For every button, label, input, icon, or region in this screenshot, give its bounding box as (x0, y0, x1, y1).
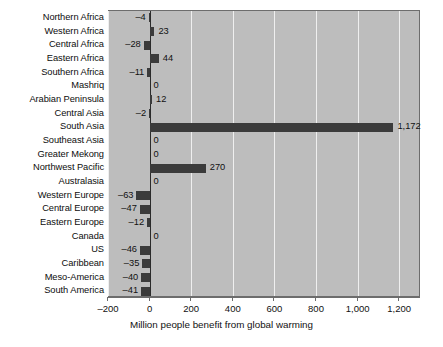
category-label: Central Europe (0, 203, 104, 213)
x-axis-line (108, 297, 420, 298)
category-label: Southern Africa (0, 67, 104, 77)
bar (144, 41, 150, 50)
bar-value-label: 0 (154, 136, 159, 145)
bar (149, 13, 150, 22)
bar (140, 205, 150, 214)
gridline-400 (233, 11, 234, 296)
chart-root: Northern AfricaWestern AfricaCentral Afr… (0, 0, 443, 347)
bar (150, 123, 394, 132)
category-label: South Asia (0, 121, 104, 131)
bar-value-label: –63 (109, 191, 133, 200)
x-tick-mark (273, 297, 274, 301)
category-label: Caribbean (0, 258, 104, 268)
bar-value-label: 12 (156, 95, 166, 104)
bar-value-label: 0 (154, 150, 159, 159)
category-label: US (0, 244, 104, 254)
category-label: Greater Mekong (0, 149, 104, 159)
gridline-800 (316, 11, 317, 296)
category-label: Western Europe (0, 190, 104, 200)
x-tick-label: –200 (97, 303, 118, 314)
bar (147, 218, 149, 227)
gridline-1200 (399, 11, 400, 296)
bar (150, 164, 206, 173)
bar (141, 287, 150, 296)
category-label: Northwest Pacific (0, 162, 104, 172)
bar-value-label: –11 (109, 68, 144, 77)
category-label: Western Africa (0, 26, 104, 36)
category-label: Central Asia (0, 108, 104, 118)
category-axis-labels: Northern AfricaWestern AfricaCentral Afr… (0, 10, 104, 297)
bar-value-label: 44 (163, 54, 173, 63)
category-label: Canada (0, 231, 104, 241)
category-label: Central Africa (0, 39, 104, 49)
category-label: Southeast Asia (0, 135, 104, 145)
category-label: Australasia (0, 176, 104, 186)
category-label: Eastern Europe (0, 217, 104, 227)
category-label: Northern Africa (0, 12, 104, 22)
x-tick-mark (398, 297, 399, 301)
bar-value-label: –46 (109, 245, 137, 254)
bar-value-label: –41 (109, 286, 138, 295)
bar-value-label: 270 (210, 163, 226, 172)
bar (150, 54, 159, 63)
x-tick-label: 0 (147, 303, 152, 314)
bar-value-label: –28 (109, 40, 141, 49)
bar-value-label: –47 (109, 204, 137, 213)
category-label: Arabian Peninsula (0, 94, 104, 104)
category-label: Meso-America (0, 272, 104, 282)
x-tick-mark (149, 297, 150, 301)
x-tick-label: 1,200 (387, 303, 411, 314)
x-tick-label: 200 (183, 303, 199, 314)
x-tick-label: 1,000 (346, 303, 370, 314)
x-tick-label: 600 (266, 303, 282, 314)
bar-value-label: –2 (109, 109, 146, 118)
bar-value-label: –4 (109, 13, 146, 22)
x-tick-mark (357, 297, 358, 301)
bar-value-label: 0 (154, 232, 159, 241)
bar-value-label: –40 (109, 273, 138, 282)
bar (150, 27, 155, 36)
category-label: South America (0, 285, 104, 295)
bar-value-label: 23 (158, 27, 168, 36)
bar (142, 259, 149, 268)
gridline-200 (191, 11, 192, 296)
bar (150, 95, 152, 104)
bar (141, 273, 149, 282)
category-label: Eastern Africa (0, 53, 104, 63)
x-tick-mark (107, 297, 108, 301)
bar-value-label: 0 (154, 81, 159, 90)
bar-value-label: 0 (154, 177, 159, 186)
bar (149, 109, 150, 118)
x-tick-label: 800 (308, 303, 324, 314)
gridline-600 (274, 11, 275, 296)
gridline-1000 (358, 11, 359, 296)
bar (140, 246, 150, 255)
x-tick-mark (190, 297, 191, 301)
x-tick-mark (315, 297, 316, 301)
bar-value-label: –12 (109, 218, 144, 227)
x-tick-label: 400 (225, 303, 241, 314)
bar (147, 68, 149, 77)
bar (136, 191, 149, 200)
x-tick-mark (232, 297, 233, 301)
bar-value-label: –35 (109, 259, 139, 268)
x-axis-title: Million people benefit from global warmi… (0, 319, 443, 330)
bar-value-label: 1,172 (397, 122, 420, 131)
plot-area: –423–2844–11012–21,172002700–63–47–120–4… (108, 10, 420, 297)
category-label: Mashriq (0, 80, 104, 90)
